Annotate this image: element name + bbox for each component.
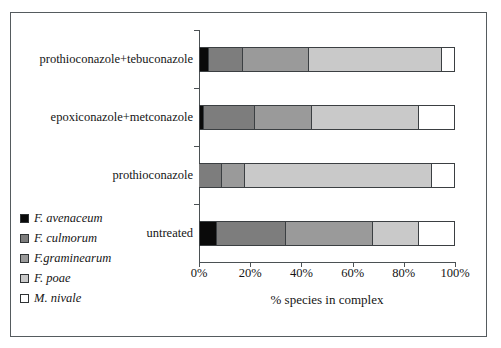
bar-segment <box>373 221 419 246</box>
legend-item: F. poae <box>20 268 170 288</box>
legend-swatch-icon <box>20 214 29 223</box>
legend-label: F. culmorum <box>34 231 97 245</box>
bar-segment <box>217 221 286 246</box>
x-axis-tick-label: 100% <box>440 266 469 280</box>
bar-segment <box>199 221 217 246</box>
legend-item: F.graminearum <box>20 248 170 268</box>
x-axis-tick-label: 40% <box>290 266 313 280</box>
legend-label: F. avenaceum <box>34 211 103 225</box>
chart-figure: untreatedprothioconazoleepoxiconazole+me… <box>0 0 501 348</box>
x-axis-line <box>199 262 456 263</box>
legend-swatch-icon <box>20 254 29 263</box>
y-axis-tick <box>194 88 199 89</box>
bar-segment <box>222 163 245 188</box>
bar-segment <box>199 163 222 188</box>
bar-segment <box>419 105 455 130</box>
legend-swatch-icon <box>20 274 29 283</box>
bar-row <box>199 221 455 246</box>
legend-label: F.graminearum <box>34 251 111 265</box>
bar-segment <box>432 163 455 188</box>
plot-area <box>199 30 455 262</box>
y-axis-tick <box>194 204 199 205</box>
legend-label: F. poae <box>34 271 71 285</box>
y-axis-tick <box>194 30 199 31</box>
bar-segment <box>245 163 432 188</box>
bar-segment <box>309 47 442 72</box>
legend-item: F. avenaceum <box>20 208 170 228</box>
x-axis-title: % species in complex <box>199 292 455 307</box>
legend-item: F. culmorum <box>20 228 170 248</box>
bar-row <box>199 163 455 188</box>
legend-label: M. nivale <box>34 291 81 305</box>
x-axis-tick-label: 60% <box>341 266 364 280</box>
bar-segment <box>204 105 255 130</box>
bar-segment <box>286 221 373 246</box>
bar-segment <box>255 105 311 130</box>
bar-segment <box>199 47 209 72</box>
bar-segment <box>419 221 455 246</box>
x-axis-tick-label: 0% <box>191 266 208 280</box>
y-axis-tick <box>194 146 199 147</box>
category-label: prothioconazole <box>112 168 193 182</box>
x-axis-tick-label: 20% <box>239 266 262 280</box>
legend-item: M. nivale <box>20 288 170 308</box>
bar-segment <box>243 47 310 72</box>
x-axis-tick-label: 80% <box>392 266 415 280</box>
legend-swatch-icon <box>20 294 29 303</box>
bar-segment <box>442 47 455 72</box>
legend-swatch-icon <box>20 234 29 243</box>
bar-row <box>199 47 455 72</box>
bar-segment <box>312 105 420 130</box>
category-label: prothioconazole+tebuconazole <box>39 52 193 66</box>
chart-legend: F. avenaceumF. culmorumF.graminearumF. p… <box>20 208 170 308</box>
bar-row <box>199 105 455 130</box>
category-label: epoxiconazole+metconazole <box>51 110 193 124</box>
bar-segment <box>209 47 242 72</box>
